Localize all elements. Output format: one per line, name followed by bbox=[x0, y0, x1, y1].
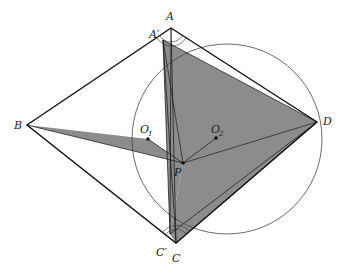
geometry-diagram: A A′ B C C′ D P O 1 O 2 bbox=[0, 0, 343, 272]
label-a-prime: A′ bbox=[148, 28, 160, 41]
label-o2-sub: 2 bbox=[218, 130, 224, 138]
label-d: D bbox=[322, 115, 332, 128]
label-c: C bbox=[172, 252, 181, 265]
point-p bbox=[181, 161, 185, 165]
label-o1-sub: 1 bbox=[148, 130, 152, 138]
label-c-prime: C′ bbox=[156, 246, 167, 259]
shaded-quad-a-prime bbox=[163, 40, 317, 163]
point-o2 bbox=[214, 136, 218, 140]
diagram-canvas: A A′ B C C′ D P O 1 O 2 bbox=[0, 0, 343, 272]
label-a: A bbox=[165, 10, 174, 23]
label-b: B bbox=[13, 119, 22, 132]
label-p: P bbox=[173, 166, 182, 179]
